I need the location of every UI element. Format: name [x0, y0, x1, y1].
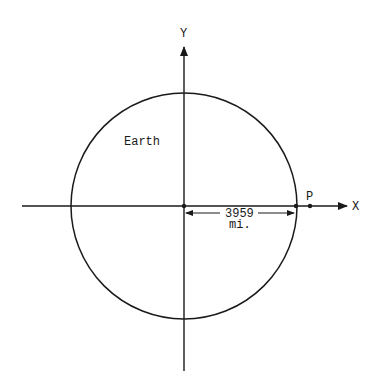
x-axis-label: X	[352, 200, 359, 214]
origin-point	[182, 204, 186, 208]
y-axis-label: Y	[180, 27, 187, 41]
radius-unit-label: mi.	[229, 218, 251, 232]
point-p	[308, 204, 312, 208]
point-p-label: P	[306, 190, 313, 204]
surface-point	[294, 204, 298, 208]
earth-label: Earth	[124, 135, 160, 149]
diagram-canvas: Y X Earth P 3959 mi.	[0, 0, 381, 392]
